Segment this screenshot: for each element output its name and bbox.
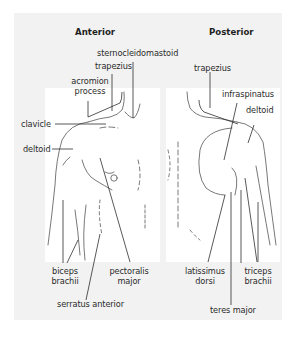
label-biceps-brachii: biceps brachii bbox=[48, 266, 82, 286]
label-deltoid-anterior: deltoid bbox=[23, 144, 51, 154]
label-acromion-process: acromion process bbox=[70, 76, 110, 96]
label-sternocleidomastoid: sternocleidomastoid bbox=[97, 48, 178, 58]
label-pectoralis-major: pectoralis major bbox=[106, 266, 152, 286]
label-trapezius-posterior: trapezius bbox=[194, 63, 231, 73]
label-latissimus-line1: latissimus bbox=[183, 266, 227, 276]
label-pectoralis-line1: pectoralis bbox=[106, 266, 152, 276]
label-infraspinatus: infraspinatus bbox=[222, 89, 274, 99]
label-triceps-line2: brachii bbox=[240, 276, 276, 286]
posterior-title: Posterior bbox=[209, 27, 254, 37]
label-teres-major: teres major bbox=[210, 305, 256, 315]
label-pectoralis-line2: major bbox=[106, 276, 152, 286]
label-acromion-line2: process bbox=[70, 86, 110, 96]
label-trapezius-anterior: trapezius bbox=[95, 61, 132, 71]
label-biceps-line1: biceps bbox=[48, 266, 82, 276]
label-latissimus-dorsi: latissimus dorsi bbox=[183, 266, 227, 286]
label-acromion-line1: acromion bbox=[70, 76, 110, 86]
anterior-title: Anterior bbox=[75, 27, 115, 37]
label-deltoid-posterior: deltoid bbox=[246, 105, 274, 115]
label-triceps-line1: triceps bbox=[240, 266, 276, 276]
label-triceps-brachii: triceps brachii bbox=[240, 266, 276, 286]
label-biceps-line2: brachii bbox=[48, 276, 82, 286]
label-latissimus-line2: dorsi bbox=[183, 276, 227, 286]
label-clavicle: clavicle bbox=[21, 119, 51, 129]
label-serratus-anterior: serratus anterior bbox=[57, 299, 124, 309]
